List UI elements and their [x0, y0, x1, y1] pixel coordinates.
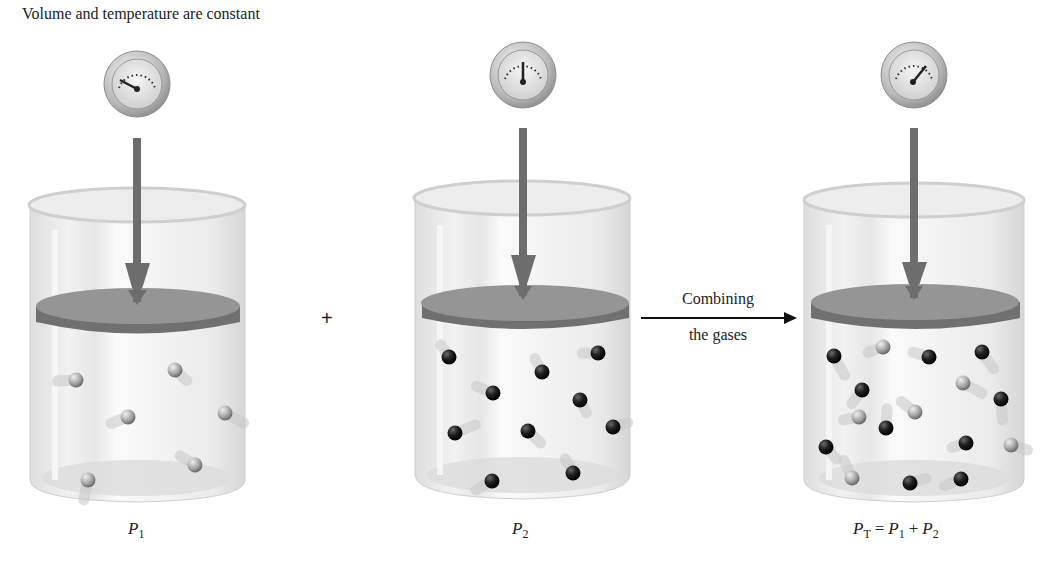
piston-3 — [811, 284, 1020, 329]
dark-molecule-icon — [521, 424, 536, 439]
pressure-label-p2: P2 — [512, 519, 528, 542]
dark-molecule-icon — [954, 472, 969, 487]
combining-label-bottom: the gases — [643, 326, 793, 344]
dark-molecule-icon — [959, 436, 974, 451]
light-molecule-icon — [845, 471, 860, 486]
label-var: P — [922, 519, 932, 538]
label-sub: 1 — [899, 527, 905, 541]
push-arrow-shaft-1 — [133, 138, 141, 268]
dark-molecule-icon — [448, 426, 463, 441]
gauge-1 — [104, 51, 170, 117]
dark-molecule-icon — [855, 383, 870, 398]
dark-molecule-icon — [606, 420, 621, 435]
light-molecule-icon — [69, 373, 84, 388]
dark-molecule-icon — [486, 386, 501, 401]
dark-molecule-icon — [591, 346, 606, 361]
container-gas-1 — [29, 51, 245, 502]
dark-molecule-icon — [573, 393, 588, 408]
dark-molecule-icon — [903, 476, 918, 491]
label-var: P — [888, 519, 898, 538]
light-molecule-icon — [81, 473, 96, 488]
plus-operator: + — [321, 307, 333, 330]
label-sub: 2 — [933, 527, 939, 541]
equals-operator: = — [871, 519, 889, 538]
dark-molecule-icon — [922, 350, 937, 365]
combining-arrow-icon — [641, 312, 797, 324]
light-molecule-icon — [121, 410, 136, 425]
push-arrow-shaft-2 — [519, 128, 527, 258]
dark-molecule-icon — [994, 392, 1009, 407]
push-arrow-shaft-3 — [910, 128, 918, 268]
label-var: P — [512, 519, 522, 538]
light-molecule-icon — [876, 340, 891, 355]
light-molecule-icon — [852, 410, 867, 425]
light-molecule-icon — [188, 458, 203, 473]
plus-operator: + — [905, 519, 923, 538]
light-molecule-icon — [956, 376, 971, 391]
gauge-2 — [490, 42, 556, 108]
light-molecule-icon — [908, 405, 923, 420]
light-molecule-icon — [218, 406, 233, 421]
dark-molecule-icon — [819, 440, 834, 455]
dark-molecule-icon — [975, 345, 990, 360]
label-sub: 2 — [522, 527, 528, 541]
container-gas-total — [804, 42, 1024, 502]
pressure-label-total: PT=P1+P2 — [853, 519, 939, 542]
label-sub: T — [863, 527, 870, 541]
pressure-label-p1: P1 — [128, 519, 144, 542]
combining-label-top: Combining — [643, 290, 793, 308]
dark-molecule-icon — [442, 350, 457, 365]
dark-molecule-icon — [485, 474, 500, 489]
label-sub: 1 — [138, 527, 144, 541]
piston-1 — [36, 288, 240, 334]
diagram-scene — [0, 0, 1049, 566]
label-var: P — [128, 519, 138, 538]
light-molecule-icon — [168, 363, 183, 378]
label-var: P — [853, 519, 863, 538]
dark-molecule-icon — [827, 349, 842, 364]
dark-molecule-icon — [566, 466, 581, 481]
dark-molecule-icon — [879, 421, 894, 436]
dark-molecule-icon — [535, 365, 550, 380]
gauge-3 — [881, 42, 947, 108]
light-molecule-icon — [1004, 438, 1019, 453]
